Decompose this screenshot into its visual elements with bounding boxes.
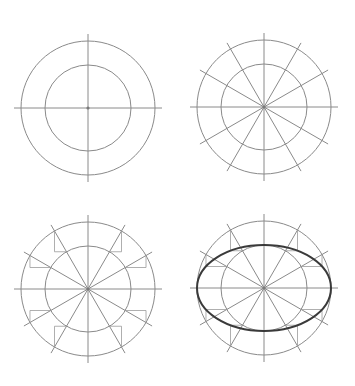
panel-step-1 (14, 34, 162, 182)
diagram-canvas (0, 0, 355, 386)
ellipse-construction-diagram (0, 0, 355, 386)
panel-step-3 (14, 215, 162, 363)
center-point (86, 106, 89, 109)
center-point (262, 286, 265, 289)
center-point (262, 105, 265, 108)
panel-step-2 (190, 33, 338, 181)
panel-step-4 (190, 214, 338, 362)
center-point (86, 287, 89, 290)
